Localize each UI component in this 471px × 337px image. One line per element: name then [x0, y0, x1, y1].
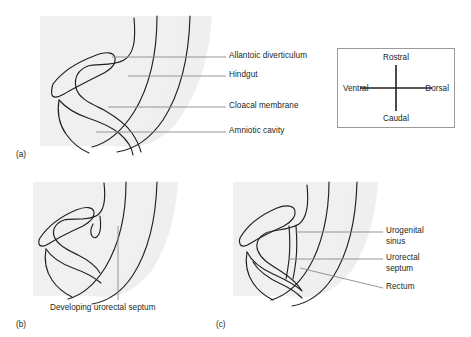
panel-id-a: (a) [16, 150, 26, 159]
label-urogenital-sinus-line1: Urogenital [386, 226, 424, 237]
label-hindgut: Hindgut [229, 70, 258, 81]
label-allantoic-diverticulum: Allantoic diverticulum [229, 51, 307, 62]
orientation-compass: Rostral Caudal Ventral Dorsal [337, 48, 455, 128]
label-urogenital-sinus-line2: sinus [386, 237, 405, 248]
compass-label-caudal: Caudal [383, 114, 409, 123]
compass-label-rostral: Rostral [383, 53, 409, 62]
compass-label-dorsal: Dorsal [425, 84, 449, 93]
panel-id-b: (b) [16, 320, 26, 329]
label-urorectal-septum-line1: Urorectal [386, 253, 420, 264]
panel-a-tissue-shading [40, 16, 212, 147]
label-amniotic-cavity: Amniotic cavity [229, 126, 284, 137]
label-developing-urorectal-septum: Developing urorectal septum [50, 303, 156, 314]
label-cloacal-membrane: Cloacal membrane [229, 101, 299, 112]
panel-id-c: (c) [216, 320, 226, 329]
compass-label-ventral: Ventral [343, 84, 369, 93]
label-urorectal-septum-line2: septum [386, 264, 413, 275]
label-rectum: Rectum [386, 282, 415, 293]
